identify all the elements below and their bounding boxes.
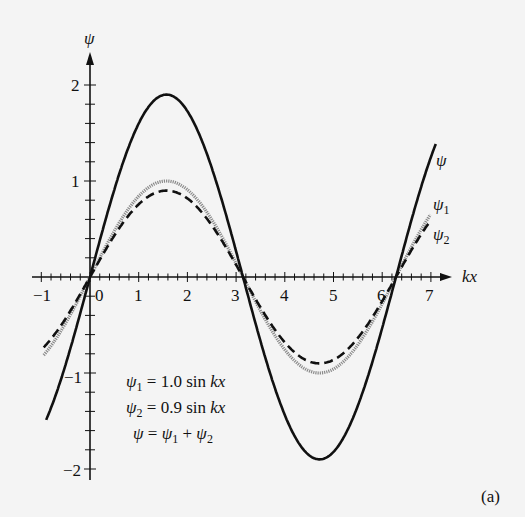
equation-psi-sum: ψ = ψ1 + ψ2 <box>133 425 213 445</box>
x-tick-label: 3 <box>231 287 240 304</box>
curve-label-psi: ψ <box>436 152 447 169</box>
curve-label-psi1-sub: 1 <box>444 203 450 217</box>
eq2-lhs: ψ <box>126 398 137 417</box>
eq1-var: kx <box>210 372 225 391</box>
x-tick-label: 4 <box>280 287 289 304</box>
y-tick-label: −2 <box>63 462 81 479</box>
eq3-b-sub: 2 <box>207 432 213 446</box>
eq3-mid: = <box>144 424 162 443</box>
eq3-a: ψ <box>162 424 173 443</box>
curve-label-psi2: ψ2 <box>433 226 450 246</box>
y-tick-label: −1 <box>64 369 82 386</box>
eq1-lhs: ψ <box>126 372 137 391</box>
x-axis-label: kx <box>462 268 477 285</box>
y-axis-arrow-icon <box>86 52 94 65</box>
y-tick-label: 1 <box>71 173 80 190</box>
y-tick-label: 2 <box>71 77 80 94</box>
x-tick-label: −1 <box>33 287 51 304</box>
x-axis-arrow-icon <box>440 273 452 281</box>
panel-label: (a) <box>481 488 500 505</box>
x-tick-label: 7 <box>425 287 434 304</box>
y-axis-label: ψ <box>84 30 95 47</box>
eq1-rhs: = 1.0 sin <box>143 372 211 391</box>
eq2-rhs: = 0.9 sin <box>143 398 211 417</box>
eq3-lhs: ψ <box>133 424 144 443</box>
x-tick-label: 0 <box>95 287 104 304</box>
x-tick-label: 2 <box>183 287 192 304</box>
equation-psi1: ψ1 = 1.0 sin kx <box>126 373 225 393</box>
curve-label-psi2-sub: 2 <box>444 233 450 247</box>
curve-label-psi2-symbol: ψ <box>433 225 444 244</box>
eq3-plus: + <box>178 424 196 443</box>
curve-label-psi1-symbol: ψ <box>433 195 444 214</box>
curve-label-psi1: ψ1 <box>433 196 450 216</box>
equation-psi2: ψ2 = 0.9 sin kx <box>126 399 225 419</box>
x-tick-label: 5 <box>329 287 338 304</box>
eq3-b: ψ <box>196 424 207 443</box>
x-tick-label: 6 <box>377 287 386 304</box>
x-tick-label: 1 <box>134 287 143 304</box>
eq2-var: kx <box>210 398 225 417</box>
